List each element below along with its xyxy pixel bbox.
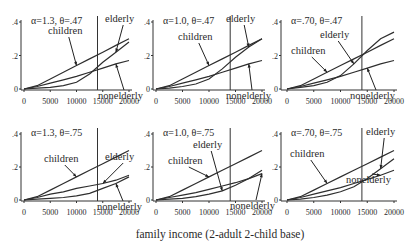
panel: 0.2.405000100001500020000α=.70, θ=.75chi… <box>272 126 404 217</box>
series-label-children: children <box>291 45 326 56</box>
series-label-nonelderly: nonelderly <box>346 174 392 185</box>
y-tick-label: .2 <box>12 52 18 61</box>
y-tick-label: 0 <box>146 196 150 205</box>
y-tick-label: .4 <box>272 130 278 139</box>
panel-title: α=1.0, θ=.75 <box>163 127 214 138</box>
y-tick-label: 0 <box>146 85 150 94</box>
arrowhead-icon <box>116 184 119 188</box>
x-tick-label: 10000 <box>331 208 351 217</box>
panel: 0.2.405000100001500020000α=.70, θ=.47chi… <box>272 15 404 106</box>
panel: 0.2.405000100001500020000α=1.0, θ=.75chi… <box>144 127 276 217</box>
x-tick-label: 15000 <box>357 208 377 217</box>
y-tick-label: .2 <box>12 163 18 172</box>
figure: 0.2.405000100001500020000α=1.3, θ=.47chi… <box>0 0 420 246</box>
x-tick-label: 10000 <box>331 97 351 106</box>
y-tick-label: 0 <box>274 85 278 94</box>
arrow-icon <box>116 64 124 90</box>
x-tick-label: 10000 <box>67 208 87 217</box>
x-tick-label: 10000 <box>199 208 219 217</box>
y-tick-label: 0 <box>14 85 18 94</box>
y-tick-label: .2 <box>272 52 278 61</box>
arrowhead-icon <box>220 187 223 191</box>
y-tick-label: 0 <box>14 196 18 205</box>
series-label-elderly: elderly <box>105 151 135 162</box>
x-tick-label: 5000 <box>42 97 58 106</box>
series-label-elderly: elderly <box>366 126 396 137</box>
series-label-elderly: elderly <box>193 139 223 150</box>
y-tick-label: .2 <box>272 163 278 172</box>
x-tick-label: 5000 <box>42 208 58 217</box>
panel: 0.2.405000100001500020000α=1.0, θ=.47chi… <box>144 13 272 106</box>
panel-title: α=1.0, θ=.47 <box>163 15 214 26</box>
x-tick-label: 0 <box>154 208 158 217</box>
arrow-icon <box>69 37 77 66</box>
x-tick-label: 5000 <box>175 208 191 217</box>
x-tick-label: 0 <box>154 97 158 106</box>
y-tick-label: .4 <box>144 130 150 139</box>
panel-title: α=.70, θ=.75 <box>291 127 342 138</box>
arrow-icon <box>249 64 252 90</box>
series-label-children: children <box>44 153 79 164</box>
arrow-icon <box>256 174 262 200</box>
arrow-icon <box>311 160 327 184</box>
series-label-nonelderly: nonelderly <box>230 200 276 211</box>
panel: 0.2.405000100001500020000α=1.3, θ=.47chi… <box>12 13 144 106</box>
x-tick-label: 5000 <box>175 97 191 106</box>
series-label-nonelderly: nonelderly <box>350 90 396 101</box>
panel-title: α=1.3, θ=.75 <box>31 127 82 138</box>
panel-title: α=.70, θ=.47 <box>291 15 342 26</box>
series-label-children: children <box>290 148 325 159</box>
series-label-children: children <box>178 31 213 42</box>
series-label-nonelderly: nonelderly <box>97 201 143 212</box>
arrow-icon <box>338 41 354 64</box>
curve-children <box>156 39 262 89</box>
series-label-elderly: elderly <box>320 29 350 40</box>
y-tick-label: .4 <box>12 130 18 139</box>
x-tick-label: 0 <box>22 208 26 217</box>
x-tick-label: 20000 <box>384 208 404 217</box>
y-tick-label: 0 <box>274 196 278 205</box>
series-label-children: children <box>168 155 203 166</box>
series-label-children: children <box>48 25 83 36</box>
series-label-elderly: elderly <box>226 13 256 24</box>
series-label-nonelderly: nonelderly <box>226 90 272 101</box>
x-tick-label: 10000 <box>67 97 87 106</box>
arrow-icon <box>199 43 209 66</box>
series-label-elderly: elderly <box>105 13 135 24</box>
arrow-icon <box>381 138 385 169</box>
x-tick-label: 5000 <box>306 208 322 217</box>
y-tick-label: .4 <box>272 18 278 27</box>
x-tick-label: 0 <box>285 97 289 106</box>
series-label-nonelderly: nonelderly <box>98 90 144 101</box>
x-tick-label: 0 <box>22 97 26 106</box>
x-tick-label: 0 <box>285 208 289 217</box>
y-tick-label: .2 <box>144 163 150 172</box>
y-tick-label: .4 <box>144 18 150 27</box>
y-tick-label: .4 <box>12 18 18 27</box>
x-axis-label: family income (2-adult 2-child base) <box>136 228 305 241</box>
arrowhead-icon <box>367 68 370 72</box>
curve-elderly <box>287 32 394 89</box>
arrowhead-icon <box>115 64 118 68</box>
y-tick-label: .2 <box>144 52 150 61</box>
panel: 0.2.405000100001500020000α=1.3, θ=.75chi… <box>12 127 143 217</box>
x-tick-label: 10000 <box>199 97 219 106</box>
x-tick-label: 5000 <box>306 97 322 106</box>
